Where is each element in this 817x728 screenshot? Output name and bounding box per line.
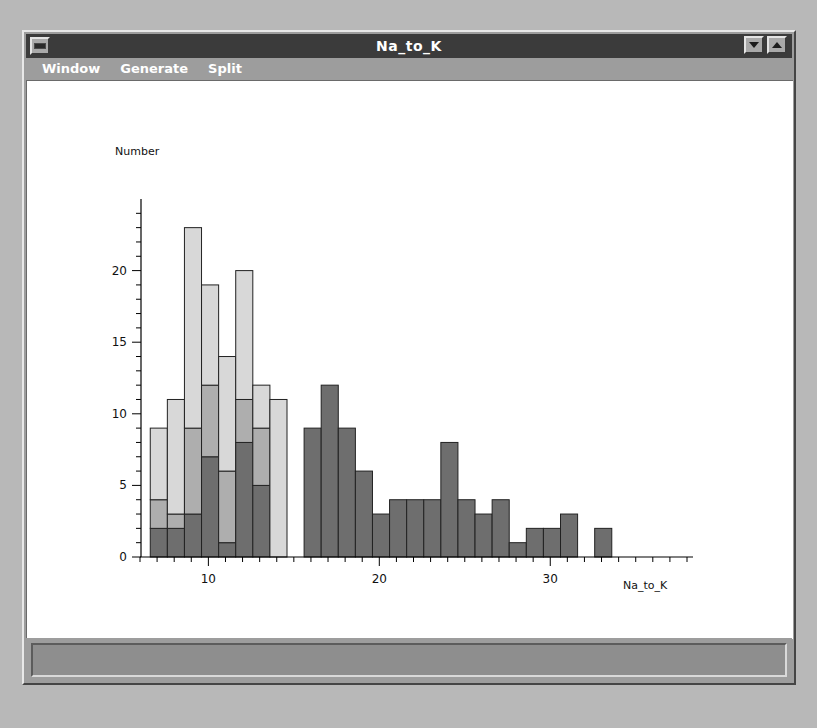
bar-segment-drugX-0 [150,528,167,557]
x-tick-label-10: 10 [201,572,216,586]
bar-segment-drugX-23 [561,514,578,557]
bar-segment-drugX-21 [526,528,543,557]
x-axis-title: Na_to_K [623,579,668,592]
window-menu-button[interactable] [30,37,50,55]
menu-item-split[interactable]: Split [198,59,252,79]
bar-segment-drugB-0 [150,428,167,500]
bar-segment-drugX-18 [475,514,492,557]
bar-segment-drugX-4 [219,543,236,557]
bar-segment-drugX-8 [304,428,321,557]
y-tick-label-20: 20 [112,264,127,278]
bar-segment-drugX-19 [492,500,509,557]
bar-segment-drugX-16 [441,442,458,557]
status-panel [26,638,792,683]
bar-segment-drugX-9 [321,385,338,557]
menu-item-window[interactable]: Window [32,59,110,79]
bar-segment-drugC-6 [253,428,270,485]
desktop-background: Na_to_K Window Generate Split 05101520Nu… [0,0,817,728]
bar-segment-drugC-2 [184,428,201,514]
bar-segment-drugX-3 [202,457,219,557]
bar-segment-drugB-2 [184,228,201,428]
bar-segment-drugB-5 [236,271,253,400]
bar-segment-drugB-1 [167,399,184,514]
bar-segment-drugX-5 [236,442,253,557]
minimize-button[interactable] [744,36,764,54]
chevron-down-icon [749,42,759,48]
bar-segment-drugC-5 [236,399,253,442]
bar-segment-drugC-3 [202,385,219,457]
bar-segment-drugX-15 [424,500,441,557]
bar-segment-drugB-4 [219,357,236,472]
bar-segment-drugX-20 [509,543,526,557]
bar-segment-drugC-4 [219,471,236,543]
x-tick-label-20: 20 [372,572,387,586]
y-tick-label-15: 15 [112,335,127,349]
chevron-up-icon [772,42,782,48]
bar-segment-drugX-22 [543,528,560,557]
bar-segment-drugX-17 [458,500,475,557]
window-title: Na_to_K [26,38,792,54]
bar-segment-drugB-6 [253,385,270,428]
bar-segment-drugX-14 [407,500,424,557]
y-tick-label-10: 10 [112,407,127,421]
x-tick-label-30: 30 [543,572,558,586]
bar-segment-drugX-13 [390,500,407,557]
stacked-histogram: 05101520Number102030Na_to_KdrugBdrugCdru… [27,81,793,639]
bar-segment-drugX-12 [372,514,389,557]
application-window: Na_to_K Window Generate Split 05101520Nu… [22,30,796,685]
window-menu-icon [34,43,46,49]
bar-segment-drugX-2 [184,514,201,557]
bar-segment-drugX-11 [355,471,372,557]
menu-bar: Window Generate Split [26,58,792,81]
y-tick-label-0: 0 [119,550,127,564]
bar-segment-drugX-10 [338,428,355,557]
bar-segment-drugC-1 [167,514,184,528]
bar-segment-drugB-3 [202,285,219,385]
maximize-button[interactable] [767,36,787,54]
y-axis-title: Number [115,145,160,158]
chart-canvas[interactable]: 05101520Number102030Na_to_KdrugBdrugCdru… [26,80,793,639]
title-bar[interactable]: Na_to_K [26,34,792,58]
bar-segment-drugB-7 [270,399,287,557]
bar-segment-drugX-6 [253,485,270,557]
window-controls [744,36,787,54]
menu-item-generate[interactable]: Generate [110,59,198,79]
bar-segment-drugX-24 [595,528,612,557]
bar-segment-drugX-1 [167,528,184,557]
bar-segment-drugC-0 [150,500,167,529]
status-field[interactable] [31,643,787,677]
y-tick-label-5: 5 [119,478,127,492]
